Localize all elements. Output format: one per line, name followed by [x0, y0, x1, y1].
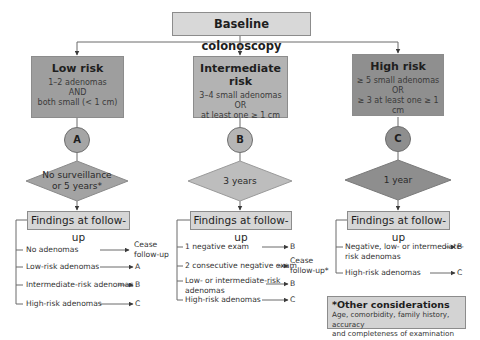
- other-considerations-text: Age, comorbidity, family history, accura…: [332, 310, 461, 329]
- low-risk-box: Low risk 1–2 adenomas AND both small (< …: [31, 56, 124, 118]
- result-line: Cease: [290, 256, 329, 266]
- result-line: follow-up*: [290, 266, 329, 276]
- marker-a-circle: A: [64, 127, 90, 153]
- intermediate-risk-box: Intermediate risk 3–4 small adenomas OR …: [193, 56, 288, 118]
- low-risk-criterion: AND: [32, 88, 123, 98]
- low-risk-title: Low risk: [32, 62, 123, 75]
- marker-c-circle: C: [385, 126, 411, 152]
- low-risk-criterion: both small (< 1 cm): [32, 98, 123, 108]
- finding-result: C: [135, 299, 140, 309]
- finding-result: C: [290, 295, 295, 305]
- result-line: Cease: [134, 240, 169, 250]
- high-risk-findings-header: Findings at follow-up: [347, 211, 450, 230]
- finding-result: C: [457, 268, 462, 278]
- finding-result: A: [135, 262, 140, 272]
- high-risk-criterion: ≥ 3 at least one ≥ 1 cm: [353, 96, 443, 116]
- finding-result: B: [135, 280, 140, 290]
- finding-result: B: [457, 242, 462, 252]
- intermediate-risk-title: Intermediate risk: [194, 62, 287, 88]
- finding-label: 2 consecutive negative exam: [185, 261, 297, 271]
- finding-label: Low-risk adenomas: [26, 262, 99, 272]
- low-risk-findings-header: Findings at follow-up: [27, 211, 130, 230]
- high-risk-box: High risk ≥ 5 small adenomas OR ≥ 3 at l…: [352, 54, 444, 116]
- result-line: follow-up: [134, 250, 169, 260]
- high-risk-criterion: OR: [353, 86, 443, 96]
- intermediate-risk-interval: 3 years: [190, 176, 290, 187]
- finding-label: Low- or intermediate-risk adenomas: [185, 276, 280, 296]
- label-line: Low- or intermediate-risk: [185, 276, 280, 286]
- finding-label: No adenomas: [26, 245, 78, 255]
- interval-line: No surveillance: [27, 170, 127, 181]
- finding-result: B: [290, 279, 295, 289]
- finding-label: Intermediate-risk adenomas: [26, 280, 133, 290]
- intermediate-risk-criterion: at least one ≥ 1 cm: [194, 111, 287, 121]
- intermediate-risk-criterion: 3–4 small adenomas: [194, 91, 287, 101]
- label-line: Negative, low- or intermediate-: [345, 242, 464, 252]
- finding-result: Cease follow-up: [134, 240, 169, 260]
- intermediate-risk-criterion: OR: [194, 101, 287, 111]
- other-considerations-box: *Other considerations Age, comorbidity, …: [327, 296, 466, 329]
- finding-label: High-risk adenomas: [185, 295, 261, 305]
- marker-b-circle: B: [227, 127, 253, 153]
- finding-label: Negative, low- or intermediate- risk ade…: [345, 242, 464, 262]
- finding-label: High-risk adenomas: [26, 299, 102, 309]
- high-risk-interval: 1 year: [348, 175, 448, 186]
- interval-line: or 5 years*: [27, 181, 127, 192]
- baseline-colonoscopy-box: Baseline colonoscopy: [172, 12, 311, 36]
- intermediate-risk-findings-header: Findings at follow-up: [190, 211, 292, 230]
- high-risk-criterion: ≥ 5 small adenomas: [353, 76, 443, 86]
- other-considerations-text: and completeness of examination: [332, 329, 461, 339]
- low-risk-criterion: 1–2 adenomas: [32, 78, 123, 88]
- other-considerations-title: *Other considerations: [332, 299, 461, 310]
- high-risk-title: High risk: [353, 60, 443, 73]
- finding-label: 1 negative exam: [185, 242, 249, 252]
- label-line: risk adenomas: [345, 252, 464, 262]
- low-risk-interval: No surveillance or 5 years*: [27, 170, 127, 192]
- finding-result: B: [290, 242, 295, 252]
- finding-result: Cease follow-up*: [290, 256, 329, 276]
- finding-label: High-risk adenomas: [345, 268, 421, 278]
